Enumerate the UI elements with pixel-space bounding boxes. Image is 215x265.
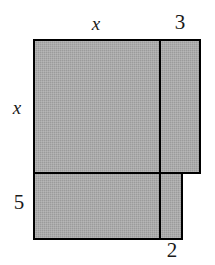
dimension-label-top-3: 3 [160, 12, 200, 33]
composite-rectangle-figure [0, 0, 215, 265]
upper-rectangle-fill [34, 40, 200, 173]
figure-root: x 3 x 5 2 [0, 0, 215, 265]
dimension-label-bottom-2: 2 [152, 240, 192, 261]
dimension-label-top-x: x [60, 14, 132, 33]
dimension-label-left-x: x [4, 98, 30, 117]
dimension-label-left-5: 5 [4, 192, 34, 213]
